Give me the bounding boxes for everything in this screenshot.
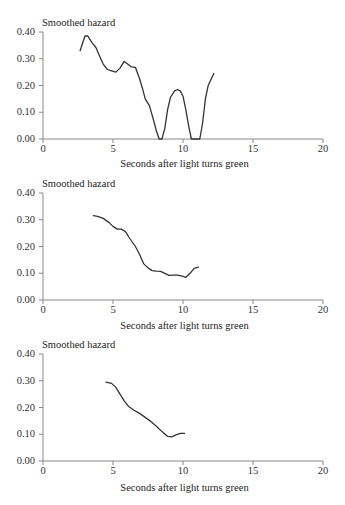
y-tick-label: 0.30: [5, 375, 35, 386]
y-tick-label: 0.00: [5, 455, 35, 466]
y-tick-label: 0.40: [5, 187, 35, 198]
y-tick-label: 0.10: [5, 428, 35, 439]
chart-3-plot: [0, 0, 345, 160]
x-tick-label: 5: [103, 465, 123, 476]
x-tick-label: 0: [33, 304, 53, 315]
x-tick-label: 20: [313, 465, 333, 476]
y-tick-label: 0.10: [5, 267, 35, 278]
x-tick-label: 15: [243, 465, 263, 476]
y-tick-label: 0.30: [5, 214, 35, 225]
x-tick-label: 15: [243, 304, 263, 315]
hazard-curve: [106, 382, 184, 437]
x-axis-title: Seconds after light turns green: [12, 320, 345, 331]
x-tick-label: 10: [173, 304, 193, 315]
hazard-curve: [93, 216, 198, 278]
hazard-chart-3: Smoothed hazard 0.40 0.30 0.20 0.10 0.00…: [0, 0, 345, 160]
y-tick-label: 0.20: [5, 241, 35, 252]
x-tick-label: 0: [33, 465, 53, 476]
y-tick-label: 0.20: [5, 402, 35, 413]
y-tick-label: 0.00: [5, 294, 35, 305]
x-tick-label: 10: [173, 465, 193, 476]
x-tick-label: 20: [313, 304, 333, 315]
y-axis-title: Smoothed hazard: [42, 178, 115, 189]
x-tick-label: 5: [103, 304, 123, 315]
y-tick-label: 0.40: [5, 348, 35, 359]
y-axis-title: Smoothed hazard: [42, 339, 115, 350]
x-axis-title: Seconds after light turns green: [12, 482, 345, 493]
